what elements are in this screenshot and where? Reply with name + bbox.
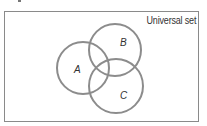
set-c-circle (89, 59, 143, 113)
venn-diagram: A B C (0, 0, 207, 126)
set-c-label: C (120, 90, 128, 101)
set-a-circle (57, 42, 109, 94)
set-b-label: B (120, 37, 127, 48)
set-a-label: A (73, 64, 81, 75)
